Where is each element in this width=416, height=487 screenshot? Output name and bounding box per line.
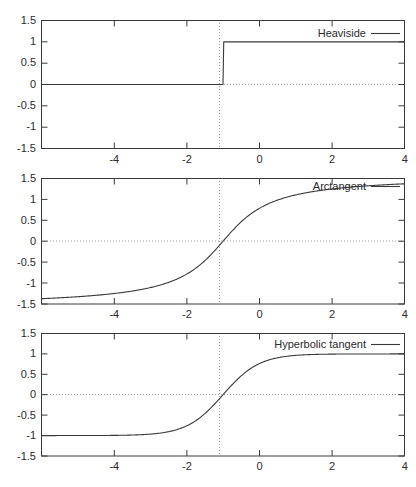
y-tick-label: 1 — [30, 193, 36, 205]
y-tick-label: 1.5 — [21, 172, 36, 184]
x-tick-label: 0 — [256, 153, 262, 165]
y-tick-label: 1.5 — [21, 14, 36, 26]
y-tick-label: 1 — [30, 347, 36, 359]
chart-panel-arctangent: 1.5 1 0.5 0 -0.5 -1 -1.5 — [0, 165, 416, 325]
chart-panel-heaviside: 1.5 1 0.5 0 -0.5 -1 -1.5 — [0, 0, 416, 170]
figure-canvas: 1.5 1 0.5 0 -0.5 -1 -1.5 — [0, 0, 416, 487]
y-tick-label: 1.5 — [21, 327, 36, 339]
y-tick-label: -0.5 — [17, 256, 36, 268]
y-tick-label: 1 — [30, 35, 36, 47]
data-series-heaviside — [42, 42, 405, 85]
x-tick-label: -2 — [182, 460, 192, 472]
x-tick-label: -2 — [182, 308, 192, 320]
x-tick-label: -2 — [182, 153, 192, 165]
x-tick-label: 4 — [402, 460, 408, 472]
plot-area-heaviside: 1.5 1 0.5 0 -0.5 -1 -1.5 — [0, 0, 416, 170]
y-tick-label: 0 — [30, 388, 36, 400]
legend-heaviside: Heaviside — [318, 27, 400, 39]
y-tick-label: -1.5 — [17, 298, 36, 310]
x-tick-label: 0 — [256, 308, 262, 320]
x-tick-label: 4 — [402, 153, 408, 165]
legend-label: Arctangent — [313, 180, 366, 192]
y-tick-label: 0 — [30, 78, 36, 90]
x-tick-label: -4 — [109, 308, 119, 320]
chart-panel-hyperbolic-tangent: 1.5 1 0.5 0 -0.5 -1 -1.5 — [0, 323, 416, 487]
y-tick-label: 0 — [30, 235, 36, 247]
y-tick-label: -0.5 — [17, 99, 36, 111]
x-tick-label: 2 — [329, 460, 335, 472]
x-tick-label: -4 — [109, 460, 119, 472]
legend-label: Heaviside — [318, 27, 366, 39]
x-tick-label: -4 — [109, 153, 119, 165]
x-tick-label: 2 — [329, 153, 335, 165]
y-tick-label: -0.5 — [17, 409, 36, 421]
plot-area-hyperbolic-tangent: 1.5 1 0.5 0 -0.5 -1 -1.5 — [0, 323, 416, 487]
y-tick-label: 0.5 — [21, 56, 36, 68]
plot-area-arctangent: 1.5 1 0.5 0 -0.5 -1 -1.5 — [0, 165, 416, 325]
y-tick-label: -1 — [26, 120, 36, 132]
legend-label: Hyperbolic tangent — [274, 338, 366, 350]
x-tick-label: 0 — [256, 460, 262, 472]
y-tick-label: 0.5 — [21, 214, 36, 226]
y-tick-label: -1 — [26, 277, 36, 289]
legend-arctangent: Arctangent — [313, 180, 400, 192]
x-tick-label: 4 — [402, 308, 408, 320]
x-tick-label: 2 — [329, 308, 335, 320]
y-tick-label: -1.5 — [17, 142, 36, 154]
legend-hyperbolic-tangent: Hyperbolic tangent — [274, 338, 400, 350]
y-tick-label: 0.5 — [21, 368, 36, 380]
y-tick-label: -1 — [26, 429, 36, 441]
y-tick-label: -1.5 — [17, 450, 36, 462]
